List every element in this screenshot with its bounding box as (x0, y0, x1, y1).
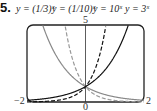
curve-y-1-3-x (43, 25, 144, 100)
curve-y-3-x (27, 25, 128, 100)
x-tick-max: 2 (146, 95, 151, 106)
x-tick-min: −2 (14, 95, 25, 106)
x-tick-zero: 0 (83, 101, 88, 111)
